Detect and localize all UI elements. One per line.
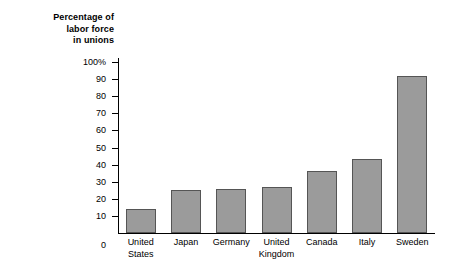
- y-axis-tick-label-text: 40: [56, 161, 106, 170]
- bar-sweden: [397, 76, 427, 233]
- category-label-line: Germany: [209, 237, 254, 249]
- y-axis-tick-label-text: 10: [56, 212, 106, 221]
- y-axis-tick-label-text: 90: [56, 75, 106, 84]
- bar-slot: [397, 62, 427, 233]
- category-label-line: United: [254, 237, 299, 249]
- y-axis-tick-label: 100%: [56, 58, 106, 67]
- category-label-germany: Germany: [209, 237, 254, 249]
- y-axis-tick-label-text: 50: [56, 144, 106, 153]
- y-axis-tick-label: 60: [56, 126, 106, 135]
- bar-canada: [307, 171, 337, 233]
- bar-slot: [126, 62, 156, 233]
- y-axis-tick-label-text: 70: [56, 109, 106, 118]
- y-axis-tick-label: 10: [56, 212, 106, 221]
- bar-slot: [171, 62, 201, 233]
- bar-united-kingdom: [262, 187, 292, 233]
- bar-series: [118, 62, 435, 233]
- category-label-japan: Japan: [163, 237, 208, 249]
- y-axis-tick-label: 80: [56, 92, 106, 101]
- bar-united-states: [126, 209, 156, 233]
- category-label-canada: Canada: [299, 237, 344, 249]
- y-axis-tick-label-text: 20: [56, 195, 106, 204]
- bar-slot: [352, 62, 382, 233]
- union-membership-bar-chart: Percentage of labor force in unions 1020…: [0, 0, 461, 277]
- category-label-italy: Italy: [344, 237, 389, 249]
- bar-slot: [262, 62, 292, 233]
- y-axis-tick-label-zero: 0: [56, 241, 106, 250]
- y-axis-tick-label-text: 60: [56, 126, 106, 135]
- category-label-line: Kingdom: [254, 249, 299, 261]
- y-axis-tick-label-text: 80: [56, 92, 106, 101]
- bar-italy: [352, 159, 382, 233]
- y-axis-tick-label: 20: [56, 195, 106, 204]
- y-axis-tick-label: 40: [56, 161, 106, 170]
- category-label-united-states: UnitedStates: [118, 237, 163, 260]
- y-axis-tick-label: 30: [56, 178, 106, 187]
- y-axis-tick-label: 90: [56, 75, 106, 84]
- category-label-line: Sweden: [390, 237, 435, 249]
- bar-slot: [216, 62, 246, 233]
- bar-slot: [307, 62, 337, 233]
- category-label-line: States: [118, 249, 163, 261]
- category-label-line: Canada: [299, 237, 344, 249]
- y-axis-tick-label-text: 30: [56, 178, 106, 187]
- category-label-line: United: [118, 237, 163, 249]
- category-label-sweden: Sweden: [390, 237, 435, 249]
- bar-japan: [171, 190, 201, 233]
- y-axis-tick-label: 70: [56, 109, 106, 118]
- category-label-line: Italy: [344, 237, 389, 249]
- y-axis-tick-label-text: 100%: [56, 58, 106, 67]
- category-label-line: Japan: [163, 237, 208, 249]
- bar-germany: [216, 189, 246, 233]
- y-axis-tick-label: 50: [56, 144, 106, 153]
- x-axis-category-labels: UnitedStatesJapanGermanyUnitedKingdomCan…: [118, 237, 435, 273]
- category-label-united-kingdom: UnitedKingdom: [254, 237, 299, 260]
